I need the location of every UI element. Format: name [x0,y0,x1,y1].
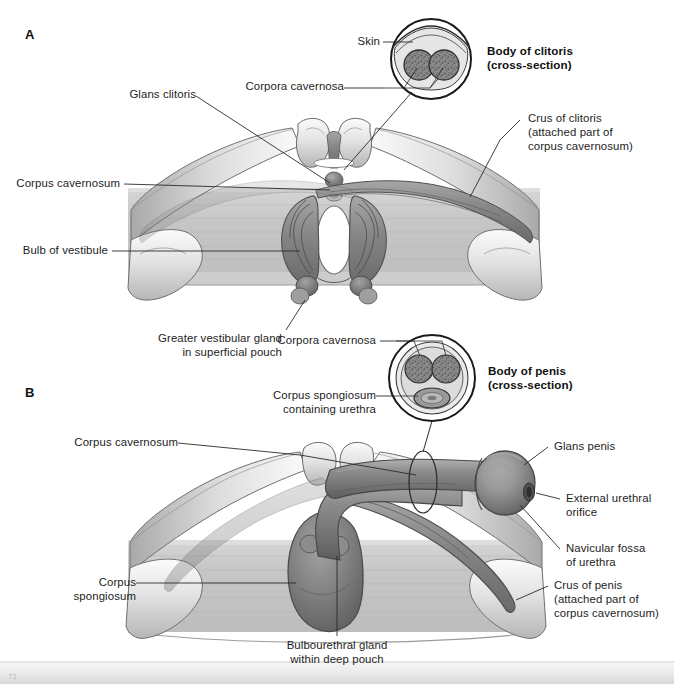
label-skin: Skin [318,35,380,49]
label-corpus-spongiosum-urethra-line2: containing urethra [228,403,376,417]
label-crus-of-clitoris-line3: corpus cavernosum) [528,140,633,154]
label-corpora-cavernosa-b: Corpora cavernosa [232,334,376,348]
label-corpus-cavernosum-a: Corpus cavernosum [0,177,120,191]
label-crus-of-penis-line1: Crus of penis [554,579,622,593]
page-number: 71 [8,672,17,681]
label-bulbourethral-gland-line1: Bulbourethral gland [243,639,431,653]
penis-cross-section-inset [389,335,475,452]
inset-title-clitoris-line1: Body of clitoris [487,44,573,58]
label-external-urethral-orifice-line1: External urethral [566,492,651,506]
label-crus-of-penis-line3: corpus cavernosum) [554,607,659,621]
panel-a-artwork [112,19,542,330]
label-external-urethral-orifice-line2: orifice [566,506,597,520]
inset-title-clitoris-line2: (cross-section) [487,58,572,72]
label-glans-penis: Glans penis [554,440,615,454]
label-bulb-of-vestibule: Bulb of vestibule [0,244,108,258]
panel-letter-b: B [25,385,35,400]
label-navicular-fossa-line1: Navicular fossa [566,542,645,556]
label-crus-of-clitoris-line1: Crus of clitoris [528,112,602,126]
label-corpus-cavernosum-b: Corpus cavernosum [50,436,178,450]
label-corpus-spongiosum-urethra-line1: Corpus spongiosum [228,389,376,403]
label-crus-of-penis-line2: (attached part of [554,593,639,607]
label-greater-vestibular-gland-line2: in superficial pouch [130,346,282,360]
label-bulbourethral-gland-line2: within deep pouch [243,653,431,667]
label-navicular-fossa-line2: of urethra [566,556,616,570]
label-crus-of-clitoris-line2: (attached part of [528,126,613,140]
panel-letter-a: A [25,27,35,42]
label-corpus-spongiosum-left-line1: Corpus [20,576,136,590]
label-corpora-cavernosa-a: Corpora cavernosa [196,80,344,94]
inset-title-penis-line2: (cross-section) [488,378,573,392]
inset-title-penis-line1: Body of penis [488,364,566,378]
label-glans-clitoris: Glans clitoris [48,88,196,102]
label-corpus-spongiosum-left-line2: spongiosum [20,590,136,604]
anatomy-figure-plate: A B Glans clitoris Corpora cavernosa Ski… [0,0,674,684]
